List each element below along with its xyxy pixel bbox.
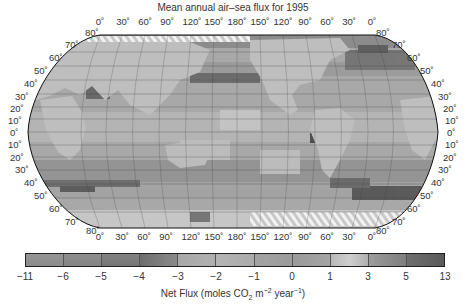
- colorbar-segment: [102, 254, 140, 266]
- map-body: [0, 30, 466, 230]
- lat-label: 10˚: [445, 139, 459, 150]
- colorbar-tick-label: −5: [95, 271, 106, 282]
- lon-label: 60˚: [320, 231, 334, 242]
- colorbar-tick-label: −11: [17, 271, 33, 282]
- lon-label: 60˚: [138, 16, 152, 27]
- colorbar-segment: [407, 254, 444, 266]
- colorbar-segment: [293, 254, 331, 266]
- lon-label: 90˚: [159, 231, 173, 242]
- lat-label: 10˚: [445, 115, 459, 126]
- lon-label: 30˚: [115, 231, 129, 242]
- lat-label: 0˚: [447, 127, 455, 138]
- lon-label: 180˚: [227, 231, 246, 242]
- lat-label: 20˚: [10, 152, 24, 163]
- lat-label: 60˚: [49, 203, 63, 214]
- lon-label: 120˚: [273, 16, 292, 27]
- lon-label: 90˚: [298, 16, 312, 27]
- lat-label: 20˚: [443, 152, 457, 163]
- colorbar-tick-label: −1: [248, 271, 259, 282]
- lat-label: 20˚: [10, 103, 24, 114]
- lat-label: 10˚: [8, 115, 22, 126]
- lat-label: 40˚: [431, 78, 445, 89]
- lat-label: 20˚: [443, 103, 457, 114]
- lat-label: 40˚: [24, 78, 38, 89]
- lon-label: 150˚: [204, 16, 223, 27]
- colorbar-segment: [216, 254, 254, 266]
- label-part: m: [253, 288, 264, 299]
- colorbar-segment: [255, 254, 293, 266]
- lon-label: 150˚: [250, 231, 269, 242]
- lon-label: 120˚: [273, 231, 292, 242]
- lon-label: 30˚: [116, 16, 130, 27]
- lat-label: 40˚: [24, 177, 38, 188]
- lat-label: 50˚: [420, 65, 434, 76]
- map-svg: [0, 0, 466, 250]
- lat-label: 70˚: [392, 39, 406, 50]
- colorbar-segment: [64, 254, 102, 266]
- lon-label: 0˚: [368, 231, 376, 242]
- colorbar-segment: [331, 254, 369, 266]
- bottom-longitude-labels: 0˚ 30˚ 60˚ 90˚ 120˚ 150˚ 180˚ 150˚ 120˚ …: [0, 231, 466, 243]
- lat-label: 80˚: [376, 27, 390, 38]
- colorbar-tick-label: 5: [403, 271, 409, 282]
- label-part: year: [272, 288, 294, 299]
- lat-label: 80˚: [86, 225, 100, 236]
- lat-label: 80˚: [85, 27, 99, 38]
- lat-label: 30˚: [15, 164, 29, 175]
- lon-label: 0˚: [368, 16, 376, 27]
- colorbar-tick-label: 1: [327, 271, 333, 282]
- lat-label: 10˚: [8, 139, 22, 150]
- lat-label: 30˚: [15, 91, 29, 102]
- lon-label: 0˚: [96, 16, 104, 27]
- colorbar: [25, 253, 445, 267]
- lon-label: 120˚: [182, 16, 201, 27]
- lat-label: 70˚: [392, 216, 406, 227]
- lon-label: 150˚: [204, 231, 223, 242]
- colorbar-axis-label: Net Flux (moles CO2 m−2 year−1): [0, 287, 466, 301]
- colorbar-tick-label: 3: [365, 271, 371, 282]
- lon-label: 180˚: [227, 16, 246, 27]
- colorbar-segment: [178, 254, 216, 266]
- colorbar-segment: [26, 254, 64, 266]
- lat-label: 70˚: [65, 39, 79, 50]
- lon-label: 90˚: [160, 16, 174, 27]
- top-longitude-labels: 0˚ 30˚ 60˚ 90˚ 120˚ 150˚ 180˚ 150˚ 120˚ …: [0, 16, 466, 28]
- world-flux-map: 0˚ 30˚ 60˚ 90˚ 120˚ 150˚ 180˚ 150˚ 120˚ …: [0, 0, 466, 250]
- lat-label: 60˚: [407, 203, 421, 214]
- colorbar-tick-label: −3: [172, 271, 183, 282]
- colorbar-segment: [140, 254, 178, 266]
- lat-label: 30˚: [438, 91, 452, 102]
- lon-label: 60˚: [137, 231, 151, 242]
- colorbar-tick-label: 0: [289, 271, 295, 282]
- lat-label: 30˚: [438, 164, 452, 175]
- lat-label: 40˚: [431, 177, 445, 188]
- colorbar-segment: [369, 254, 407, 266]
- lon-label: 90˚: [298, 231, 312, 242]
- label-sup: −1: [294, 287, 302, 294]
- lon-label: 120˚: [181, 231, 200, 242]
- lat-label: 50˚: [34, 65, 48, 76]
- lat-label: 60˚: [407, 52, 421, 63]
- lat-label: 60˚: [49, 52, 63, 63]
- label-part: ): [302, 288, 305, 299]
- colorbar-tick-label: −6: [57, 271, 68, 282]
- colorbar-tick-label: −2: [210, 271, 221, 282]
- lat-label: 50˚: [34, 190, 48, 201]
- lat-label: 70˚: [65, 216, 79, 227]
- label-part: Net Flux (moles CO: [161, 288, 249, 299]
- lat-label: 80˚: [376, 225, 390, 236]
- colorbar-tick-label: 13: [439, 271, 450, 282]
- lon-label: 30˚: [342, 231, 356, 242]
- lat-label: 0˚: [10, 127, 18, 138]
- lat-label: 50˚: [420, 190, 434, 201]
- lon-label: 60˚: [320, 16, 334, 27]
- colorbar-tick-label: −4: [133, 271, 144, 282]
- label-sup: −2: [264, 287, 272, 294]
- lon-label: 30˚: [342, 16, 356, 27]
- lon-label: 150˚: [250, 16, 269, 27]
